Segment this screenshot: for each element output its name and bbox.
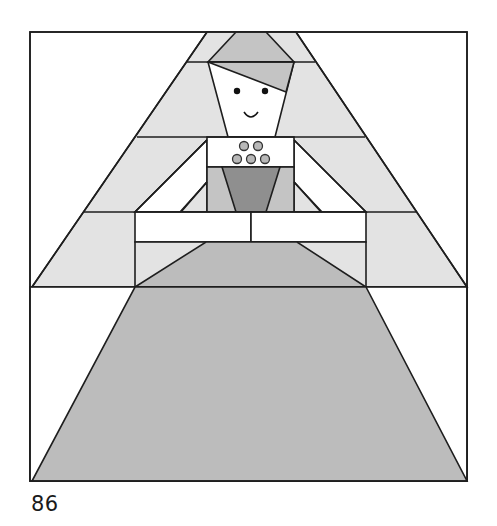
- right-eye-icon: [262, 88, 268, 94]
- right-arm: [251, 212, 366, 242]
- button-dot: [247, 155, 256, 164]
- left-arm: [135, 212, 251, 242]
- page-number: 86: [31, 492, 59, 516]
- quilt-block-diagram: [0, 0, 497, 526]
- button-dot: [233, 155, 242, 164]
- button-dot: [240, 142, 249, 151]
- button-dot: [254, 142, 263, 151]
- button-dot: [261, 155, 270, 164]
- left-eye-icon: [234, 88, 240, 94]
